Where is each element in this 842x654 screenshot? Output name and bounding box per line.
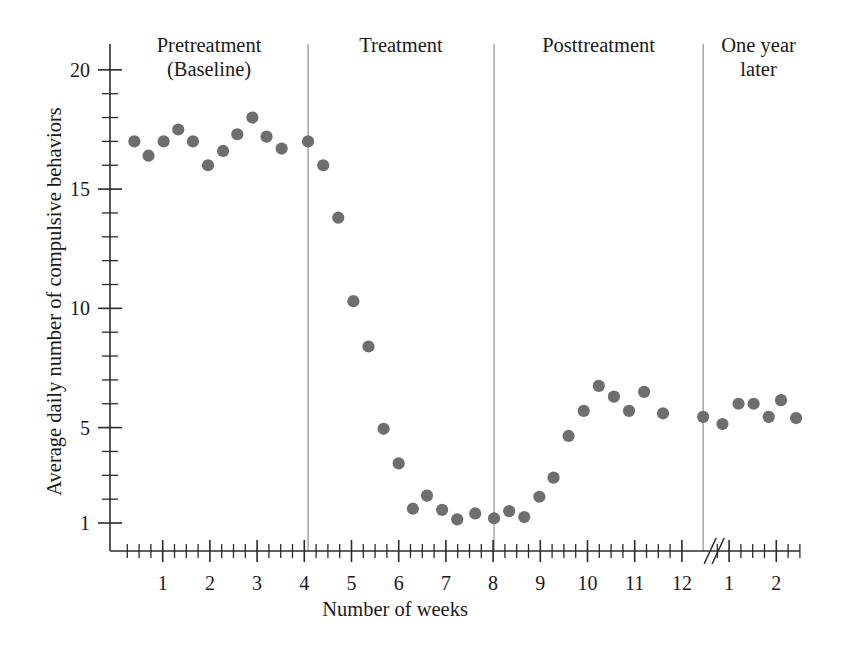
x-tick-label-10: 11	[625, 572, 644, 594]
data-point	[421, 489, 433, 501]
x-tick-label-2: 3	[252, 572, 262, 594]
data-point	[128, 135, 140, 147]
data-point	[697, 411, 709, 423]
x-tick-label-1: 2	[205, 572, 215, 594]
x-tick-label-6: 7	[441, 572, 451, 594]
data-point	[302, 135, 314, 147]
data-point	[246, 111, 258, 123]
data-point	[790, 412, 802, 424]
data-point	[142, 150, 154, 162]
data-point	[732, 398, 744, 410]
chart-plot-area: 1510152012345678910111212	[0, 0, 842, 654]
phase-label-treatment: Treatment	[308, 33, 494, 57]
x-tick-label-8: 9	[535, 572, 545, 594]
y-tick-label-15: 15	[70, 178, 90, 200]
y-tick-label-10: 10	[70, 297, 90, 319]
data-point	[657, 407, 669, 419]
x-tick-label-13: 2	[771, 572, 781, 594]
data-point	[172, 123, 184, 135]
y-tick-label-1: 1	[80, 512, 90, 534]
data-point	[276, 142, 288, 154]
data-point	[547, 472, 559, 484]
data-point	[578, 405, 590, 417]
data-point	[332, 212, 344, 224]
data-point	[377, 423, 389, 435]
data-point	[533, 491, 545, 503]
x-tick-label-0: 1	[158, 572, 168, 594]
data-point	[217, 145, 229, 157]
x-tick-label-3: 4	[299, 572, 309, 594]
data-point	[488, 512, 500, 524]
data-point	[763, 411, 775, 423]
data-point	[347, 295, 359, 307]
phase-divider-group	[308, 44, 703, 551]
data-point	[202, 159, 214, 171]
phase-label-pretreatment: Pretreatment (Baseline)	[110, 33, 308, 81]
data-point-group	[128, 111, 802, 525]
data-point	[436, 504, 448, 516]
x-axis-label: Number of weeks	[0, 598, 790, 621]
data-point	[748, 398, 760, 410]
y-tick-label-5: 5	[80, 417, 90, 439]
data-point	[231, 128, 243, 140]
phase-label-one-year-later: One year later	[703, 33, 814, 81]
data-point	[716, 418, 728, 430]
data-point	[393, 457, 405, 469]
data-point	[260, 131, 272, 143]
x-tick-label-4: 5	[347, 572, 357, 594]
data-point	[593, 380, 605, 392]
phase-label-posttreatment: Posttreatment	[494, 33, 703, 57]
chart-figure: 1510152012345678910111212 Pretreatment (…	[0, 0, 842, 654]
axis-group	[110, 44, 800, 551]
data-point	[518, 511, 530, 523]
data-point	[608, 390, 620, 402]
data-point	[563, 430, 575, 442]
x-tick-label-7: 8	[488, 572, 498, 594]
data-point	[451, 513, 463, 525]
data-point	[503, 505, 515, 517]
data-point	[187, 135, 199, 147]
y-tick-label-20: 20	[70, 59, 90, 81]
x-tick-label-9: 10	[578, 572, 598, 594]
data-point	[623, 405, 635, 417]
data-point	[469, 507, 481, 519]
data-point	[638, 386, 650, 398]
x-tick-label-12: 1	[724, 572, 734, 594]
data-point	[407, 503, 419, 515]
tick-group	[98, 70, 800, 564]
data-point	[317, 159, 329, 171]
x-tick-label-5: 6	[394, 572, 404, 594]
data-point	[775, 394, 787, 406]
x-tick-label-11: 12	[672, 572, 692, 594]
y-axis-label: Average daily number of compulsive behav…	[43, 72, 66, 532]
data-point	[158, 135, 170, 147]
data-point	[362, 340, 374, 352]
tick-label-group: 1510152012345678910111212	[70, 59, 781, 594]
